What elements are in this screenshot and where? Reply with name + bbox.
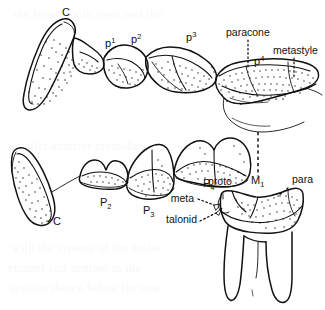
label-lower-p3: P3 — [143, 204, 155, 219]
label-paracone: paracone — [226, 26, 270, 38]
label-para: para — [292, 173, 313, 185]
label-meta: meta — [171, 192, 195, 204]
label-lower-canine: C — [53, 215, 61, 227]
lower-p2-stipple — [87, 175, 123, 184]
upper-tooth-row — [23, 19, 322, 132]
lower-p2-tooth — [79, 160, 128, 189]
label-lower-p2: P2 — [100, 196, 112, 211]
p3-stipple — [155, 61, 214, 91]
root-tick — [252, 290, 253, 296]
label-upper-p2: p2 — [131, 32, 141, 45]
label-lower-m1: M1 — [251, 174, 264, 189]
dentition-diagram: C p1 p2 p3 p4 paracone metastyle C P2 P3… — [0, 0, 325, 310]
upper-p2-tooth — [104, 45, 148, 88]
upper-canine-tooth — [23, 19, 75, 110]
lower-p3-tooth — [127, 144, 174, 199]
label-talonid: talonid — [166, 213, 197, 225]
label-upper-canine: C — [62, 6, 70, 18]
p1-stipple — [78, 59, 97, 72]
upper-p3-tooth — [146, 47, 217, 93]
label-metastyle: metastyle — [273, 44, 318, 56]
upper-p1-tooth — [73, 38, 105, 74]
canine-stipple — [28, 39, 73, 104]
lower-m1-tooth — [218, 188, 303, 302]
meta-leader — [198, 199, 214, 205]
jaw-line — [52, 176, 80, 192]
upper-p4-tooth — [215, 59, 322, 132]
para-leader — [278, 188, 288, 196]
talonid-leader — [200, 213, 216, 221]
m1-stipple — [235, 195, 299, 228]
lower-canine-tooth — [11, 148, 54, 226]
label-proto: proto — [208, 175, 232, 187]
label-upper-p3: p3 — [186, 30, 196, 43]
